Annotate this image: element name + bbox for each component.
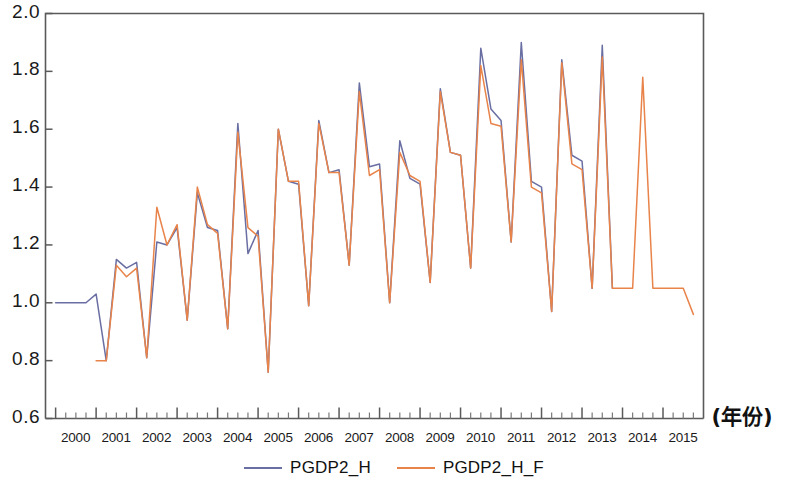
y-tick-label: 1.6 xyxy=(0,116,40,138)
y-axis-tick-marks xyxy=(46,14,53,419)
x-axis-unit-label: (年份) xyxy=(712,400,773,430)
y-tick-label: 1.2 xyxy=(0,232,40,254)
y-tick-label: 1.8 xyxy=(0,58,40,80)
y-tick-label: 1.4 xyxy=(0,174,40,196)
x-axis-tick-marks xyxy=(56,408,694,419)
y-tick-label: 0.8 xyxy=(0,348,40,370)
legend-label: PGDP2_H_F xyxy=(443,458,544,478)
y-tick-label: 0.6 xyxy=(0,406,40,428)
data-series-group xyxy=(56,42,694,372)
legend-entry[interactable]: PGDP2_H_F xyxy=(397,458,544,478)
legend-label: PGDP2_H xyxy=(290,458,371,478)
legend-color-swatch xyxy=(397,467,435,469)
chart-legend: PGDP2_HPGDP2_H_F xyxy=(0,458,788,478)
legend-color-swatch xyxy=(244,467,282,469)
y-tick-label: 1.0 xyxy=(0,290,40,312)
chart-figure: 2.01.81.61.41.21.00.80.6 200020012002200… xyxy=(0,0,788,489)
y-tick-label: 2.0 xyxy=(0,1,40,23)
plot-frame xyxy=(46,14,704,419)
x-tick-label: 2015 xyxy=(659,430,707,445)
legend-entry[interactable]: PGDP2_H xyxy=(244,458,371,478)
line-chart-plot xyxy=(0,0,788,489)
